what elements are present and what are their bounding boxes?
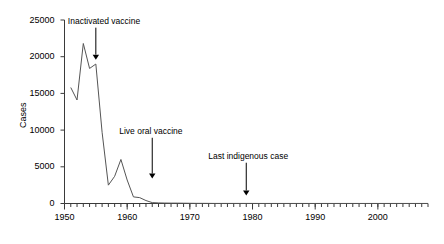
x-axis-minor-ticks — [65, 204, 429, 208]
series-line-poliomyelitis-cases — [71, 43, 428, 203]
annotation-label: Inactivated vaccine — [68, 16, 140, 26]
y-tick-label: 5000 — [0, 162, 55, 171]
y-axis-major-ticks — [61, 20, 65, 204]
annotation-label: Live oral vaccine — [119, 126, 182, 136]
y-axis-label: Cases — [18, 102, 28, 128]
annotation-label: Last indigenous case — [208, 151, 288, 161]
y-tick-label: 15000 — [0, 89, 55, 98]
x-tick-label: 1970 — [167, 213, 213, 222]
polio-cases-line-chart: Cases 0500010000150002000025000 19501960… — [0, 0, 444, 244]
annotation-arrow-head — [93, 55, 99, 60]
x-tick-label: 2000 — [355, 213, 401, 222]
y-tick-label: 20000 — [0, 52, 55, 61]
y-tick-label: 10000 — [0, 126, 55, 135]
data-series-group — [71, 43, 428, 203]
annotation-arrow-head — [149, 174, 155, 179]
x-tick-label: 1950 — [42, 213, 88, 222]
x-tick-label: 1960 — [104, 213, 150, 222]
annotation-arrow-head — [243, 190, 249, 195]
y-tick-label: 25000 — [0, 16, 55, 25]
x-tick-label: 1990 — [292, 213, 338, 222]
annotation-arrows — [93, 28, 250, 196]
chart-canvas — [0, 0, 444, 244]
y-tick-label: 0 — [0, 199, 55, 208]
x-tick-label: 1980 — [230, 213, 276, 222]
